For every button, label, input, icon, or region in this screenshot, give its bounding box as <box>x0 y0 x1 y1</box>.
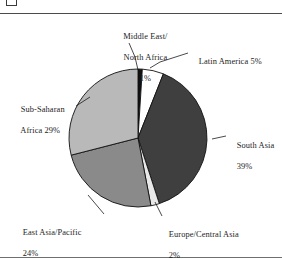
pie-label-mena-value: 1% <box>140 74 151 83</box>
figure-container: Middle East/ North Africa 1%Latin Americ… <box>0 0 282 259</box>
pie-label-mena-line2: North Africa <box>124 53 168 62</box>
pie-label-europe-central-asia-text: Europe/Central Asia <box>169 230 239 239</box>
pie-label-latin-america-text: Latin America 5% <box>199 57 262 66</box>
pie-label-east-asia-pacific-value: 24% <box>23 249 39 258</box>
pie-label-sub-saharan-africa-line1: Sub-Saharan <box>21 105 65 114</box>
pie-label-south-asia: South Asia 39% <box>228 131 282 183</box>
pie-label-latin-america: Latin America 5% <box>190 47 280 78</box>
pie-label-east-asia-pacific: East Asia/Pacific 24% <box>14 218 124 259</box>
pie-label-europe-central-asia: Europe/Central Asia 2% <box>160 220 280 259</box>
pie-label-sub-saharan-africa: Sub-Saharan Africa 29% <box>12 95 92 147</box>
pie-label-mena-line1: Middle East/ <box>123 32 167 41</box>
pie-label-europe-central-asia-value: 2% <box>169 251 180 259</box>
pie-label-sub-saharan-africa-line2: Africa 29% <box>20 126 60 135</box>
pie-label-east-asia-pacific-text: East Asia/Pacific <box>23 228 82 237</box>
leader-line-east-asia-pacific <box>88 195 104 214</box>
pie-label-south-asia-value: 39% <box>237 162 253 171</box>
pie-label-south-asia-text: South Asia <box>237 141 275 150</box>
leader-line-south-asia <box>212 136 226 139</box>
pie-label-middle-east-north-africa: Middle East/ North Africa 1% <box>101 22 181 95</box>
